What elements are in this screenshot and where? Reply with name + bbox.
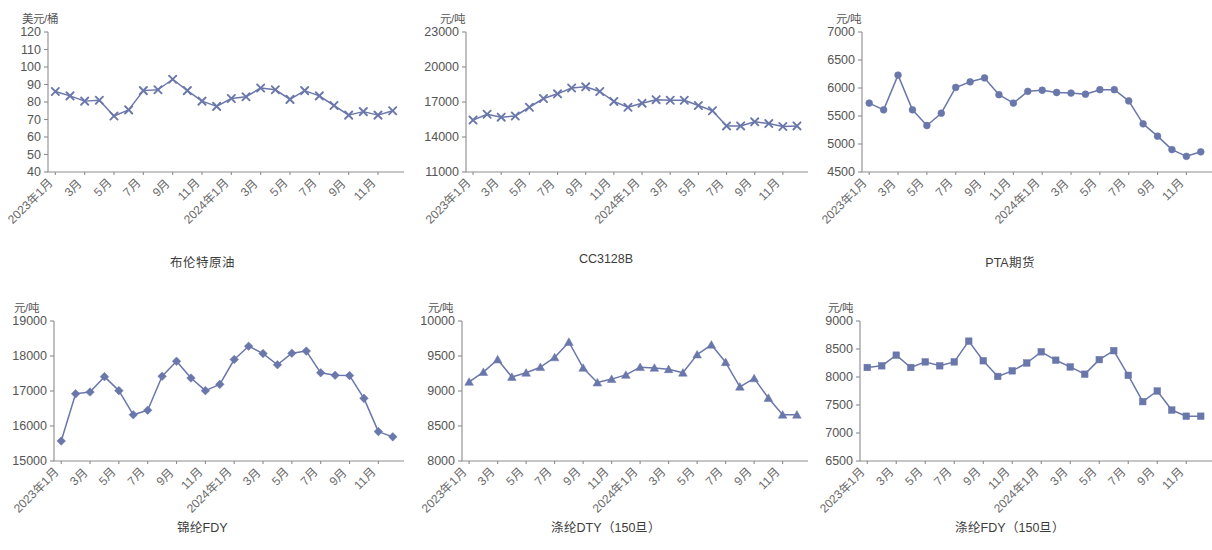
data-point-marker — [1023, 360, 1030, 367]
data-point-marker — [1081, 371, 1088, 378]
chart-caption-pta-futures: PTA期货 — [808, 252, 1212, 271]
data-point-marker — [750, 374, 759, 382]
data-point-marker — [1053, 89, 1060, 96]
x-axis-tick-label: 9月 — [326, 176, 349, 199]
x-axis-tick-label: 9月 — [150, 176, 173, 199]
plot-area-brent-crude: 4050607080901001101202023年1月3月5月7月9月11月2… — [0, 0, 404, 250]
data-point-marker — [996, 91, 1003, 98]
x-axis-tick-label: 3月 — [240, 465, 263, 488]
x-axis-tick-label: 9月 — [732, 176, 755, 199]
y-axis-tick-label: 4500 — [827, 165, 855, 179]
series-line — [61, 346, 393, 441]
data-point-marker — [110, 112, 117, 119]
chart-caption-brent-crude: 布伦特原油 — [0, 252, 404, 271]
data-point-marker — [1197, 413, 1204, 420]
x-axis-tick-label: 7月 — [296, 176, 319, 199]
y-axis-tick-label: 8000 — [825, 370, 853, 384]
data-point-marker — [330, 102, 337, 109]
x-axis-tick-label: 5月 — [1076, 465, 1099, 488]
x-axis-tick-label: 2023年1月 — [419, 465, 469, 515]
y-axis-tick-label: 110 — [21, 43, 41, 57]
data-point-marker — [707, 341, 716, 349]
data-point-marker — [493, 355, 502, 363]
y-axis-tick-label: 120 — [20, 25, 41, 39]
x-axis-tick-label: 7月 — [704, 176, 727, 199]
chart-cell-pta-futures: 元/吨4500500055006000650070002023年1月3月5月7月… — [808, 0, 1212, 285]
data-point-marker — [922, 359, 929, 366]
series-line — [473, 87, 797, 127]
x-axis-tick-label: 5月 — [267, 176, 290, 199]
data-point-marker — [1197, 148, 1204, 155]
data-point-marker — [345, 371, 354, 380]
y-axis-tick-label: 8500 — [427, 419, 455, 433]
data-point-marker — [1038, 349, 1045, 356]
x-axis-tick-label: 5月 — [675, 176, 698, 199]
y-axis-tick-label: 5000 — [827, 137, 855, 151]
y-axis-tick-label: 19000 — [12, 314, 47, 328]
data-point-marker — [143, 406, 152, 415]
data-point-marker — [331, 371, 340, 380]
x-axis-tick-label: 3月 — [1047, 465, 1070, 488]
x-axis-tick-label: 3月 — [475, 465, 498, 488]
y-axis-tick-label: 7000 — [825, 426, 853, 440]
data-point-marker — [736, 383, 745, 391]
y-axis-tick-label: 16000 — [12, 419, 47, 433]
data-point-marker — [951, 359, 958, 366]
x-axis-tick-label: 7月 — [933, 176, 956, 199]
x-axis-tick-label: 9月 — [1135, 176, 1158, 199]
x-axis-tick-label: 7月 — [703, 465, 726, 488]
data-point-marker — [880, 106, 887, 113]
x-axis-tick-label: 9月 — [563, 176, 586, 199]
data-point-marker — [936, 363, 943, 370]
data-point-marker — [526, 104, 533, 111]
y-axis-tick-label: 15000 — [12, 454, 47, 468]
x-axis-tick-label: 5月 — [904, 176, 927, 199]
x-axis-tick-label: 2023年1月 — [11, 465, 61, 515]
data-point-marker — [907, 364, 914, 371]
data-point-marker — [866, 100, 873, 107]
data-point-marker — [125, 106, 132, 113]
chart-cell-cc3128b: 元/吨11000140001700020000230002023年1月3月5月7… — [404, 0, 808, 285]
y-axis-tick-label: 8500 — [825, 342, 853, 356]
data-point-marker — [565, 338, 574, 346]
data-point-marker — [893, 352, 900, 359]
data-point-marker — [1039, 87, 1046, 94]
data-point-marker — [693, 350, 702, 358]
x-axis-tick-label: 11月 — [1159, 176, 1186, 203]
x-axis-tick-label: 3月 — [478, 176, 501, 199]
data-point-marker — [1183, 413, 1190, 420]
data-point-marker — [1154, 388, 1161, 395]
data-point-marker — [1139, 398, 1146, 405]
data-point-marker — [1111, 86, 1118, 93]
data-point-marker — [316, 92, 323, 99]
y-axis-tick-label: 18000 — [12, 349, 47, 363]
y-axis-tick-label: 50 — [27, 148, 41, 162]
x-axis-tick-label: 7月 — [125, 465, 148, 488]
x-axis-tick-label: 7月 — [535, 176, 558, 199]
chart-grid: 美元/桶4050607080901001101202023年1月3月5月7月9月… — [0, 0, 1212, 550]
x-axis-tick-label: 7月 — [1106, 176, 1129, 199]
y-axis-tick-label: 5500 — [827, 109, 855, 123]
data-point-marker — [198, 98, 205, 105]
chart-cell-polyester-dty: 元/吨8000850090009500100002023年1月3月5月7月9月1… — [404, 285, 808, 550]
chart-caption-polyester-dty: 涤纶DTY（150旦） — [404, 517, 808, 536]
x-axis-tick-label: 3月 — [67, 465, 90, 488]
data-point-marker — [895, 72, 902, 79]
data-point-marker — [938, 110, 945, 117]
plot-area-cc3128b: 11000140001700020000230002023年1月3月5月7月9月… — [404, 0, 808, 250]
data-point-marker — [1169, 146, 1176, 153]
data-point-marker — [184, 87, 191, 94]
chart-caption-cc3128b: CC3128B — [404, 252, 808, 266]
data-point-marker — [360, 394, 369, 403]
data-point-marker — [695, 102, 702, 109]
x-axis-tick-label: 5月 — [506, 176, 529, 199]
chart-cell-polyester-fdy: 元/吨6500700075008000850090002023年1月3月5月7月… — [808, 285, 1212, 550]
series-line — [469, 342, 797, 415]
data-point-marker — [1067, 364, 1074, 371]
data-point-marker — [129, 411, 138, 420]
y-axis-tick-label: 7500 — [825, 398, 853, 412]
data-point-marker — [1154, 133, 1161, 140]
data-point-marker — [169, 76, 176, 83]
x-axis-tick-label: 2023年1月 — [819, 176, 869, 226]
data-point-marker — [1125, 97, 1132, 104]
